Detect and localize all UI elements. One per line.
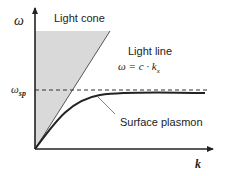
light-line-label: Light line [128,45,172,57]
omega-sp-label: ωsp [11,83,26,98]
surface-plasmon-pointer [98,97,115,114]
light-line-equation: ω = c · kx [118,60,161,75]
light-cone-label: Light cone [54,12,105,24]
dispersion-diagram: ω k ωsp Light cone Light line ω = c · kx… [0,0,226,176]
surface-plasmon-label: Surface plasmon [120,116,203,128]
y-axis-label: ω [14,13,24,28]
x-axis-label: k [195,157,201,171]
